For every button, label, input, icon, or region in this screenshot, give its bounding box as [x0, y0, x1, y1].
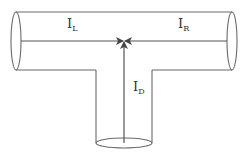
label-down-flow: ID: [133, 80, 145, 96]
label-right-sub: R: [183, 24, 189, 33]
label-right-flow: IR: [178, 17, 189, 33]
right-cross-section: [227, 12, 237, 70]
left-cross-section: [11, 12, 21, 70]
label-left-sub: L: [72, 24, 77, 33]
label-down-sub: D: [138, 87, 144, 96]
t-junction-diagram: [0, 0, 248, 154]
label-left-flow: IL: [67, 17, 77, 33]
